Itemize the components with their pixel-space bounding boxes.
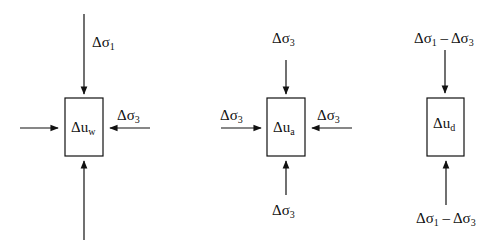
label-operator: – [437, 30, 451, 46]
label-bottom-deviator: Δσ1 – Δσ3 [416, 211, 476, 228]
label-subscript: 3 [238, 114, 243, 125]
label-subscript: w [88, 126, 95, 137]
label-subscript: 3 [290, 209, 295, 220]
label-top-water: Δσ1 [92, 35, 115, 52]
label-subscript: 3 [335, 114, 340, 125]
label-left-air: Δσ3 [220, 108, 243, 125]
label-subscript: 1 [110, 41, 115, 52]
label-subscript: a [290, 126, 294, 137]
label-symbol: Δσ [117, 107, 135, 123]
label-box-deviator: Δud [433, 116, 455, 133]
label-symbol: Δσ [416, 210, 434, 226]
label-subscript: d [450, 122, 455, 133]
label-symbol: Δσ [220, 107, 238, 123]
label-box-air: Δua [273, 120, 295, 137]
label-symbol: Δσ [451, 30, 469, 46]
label-subscript: 3 [469, 37, 474, 48]
label-right-water: Δσ3 [117, 108, 140, 125]
label-symbol: Δu [433, 115, 450, 131]
label-subscript: 3 [471, 217, 476, 228]
label-symbol: Δσ [453, 210, 471, 226]
label-symbol: Δu [71, 119, 88, 135]
label-symbol: Δu [273, 119, 290, 135]
label-symbol: Δσ [92, 34, 110, 50]
label-box-water: Δuw [71, 120, 95, 137]
label-symbol: Δσ [317, 107, 335, 123]
label-symbol: Δσ [414, 30, 432, 46]
label-right-air: Δσ3 [317, 108, 340, 125]
label-operator: – [439, 210, 453, 226]
label-bottom-air: Δσ3 [272, 203, 295, 220]
label-subscript: 3 [290, 37, 295, 48]
label-symbol: Δσ [272, 202, 290, 218]
label-subscript: 3 [135, 114, 140, 125]
label-top-deviator: Δσ1 – Δσ3 [414, 31, 474, 48]
label-top-air: Δσ3 [272, 31, 295, 48]
label-symbol: Δσ [272, 30, 290, 46]
